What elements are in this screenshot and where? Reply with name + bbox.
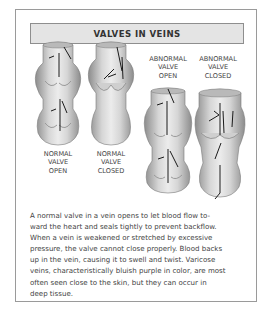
- vein-illustration-icon: [33, 37, 83, 147]
- label-line: OPEN: [143, 72, 193, 80]
- caption-text: A normal valve in a vein opens to let bl…: [30, 210, 248, 299]
- label-line: NORMAL: [33, 150, 83, 158]
- caption-line: When a vein is weakened or stretched by …: [30, 232, 248, 243]
- label-line: VALVE: [143, 63, 193, 71]
- label-line: VALVE: [193, 63, 243, 71]
- vein-illustration-icon: [86, 37, 136, 147]
- sidebar-box: VALVES IN VEINS NORMAL VALVE OPEN: [15, 9, 257, 302]
- label-line: VALVE: [33, 158, 83, 166]
- caption-line: often seen close to the skin, but they c…: [30, 277, 248, 288]
- figure-abnormal-valve-closed: [193, 85, 247, 201]
- label-line: CLOSED: [193, 72, 243, 80]
- vein-illustration-icon: [193, 85, 247, 201]
- label-line: ABNORMAL: [143, 55, 193, 63]
- label-normal-valve-open: NORMAL VALVE OPEN: [33, 150, 83, 175]
- caption-line: ward the heart and seals tightly to prev…: [30, 221, 248, 232]
- caption-line: veins, characteristically bluish purple …: [30, 265, 248, 276]
- label-line: CLOSED: [86, 167, 136, 175]
- label-line: VALVE: [86, 158, 136, 166]
- label-abnormal-valve-open: ABNORMAL VALVE OPEN: [143, 55, 193, 80]
- caption-line: deep tissue.: [30, 288, 248, 299]
- label-line: NORMAL: [86, 150, 136, 158]
- figure-normal-valve-open: [33, 37, 83, 147]
- figure-normal-valve-closed: [86, 37, 136, 147]
- label-line: OPEN: [33, 167, 83, 175]
- label-normal-valve-closed: NORMAL VALVE CLOSED: [86, 150, 136, 175]
- caption-line: A normal valve in a vein opens to let bl…: [30, 210, 248, 221]
- caption-line: pressure, the valve cannot close properl…: [30, 243, 248, 254]
- figure-abnormal-valve-open: [142, 85, 194, 195]
- vein-illustration-icon: [142, 85, 194, 195]
- label-line: ABNORMAL: [193, 55, 243, 63]
- caption-line: up in the vein, causing it to swell and …: [30, 254, 248, 265]
- label-abnormal-valve-closed: ABNORMAL VALVE CLOSED: [193, 55, 243, 80]
